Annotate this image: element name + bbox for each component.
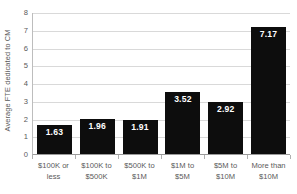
x-axis-category-label-line: $500K [75,172,118,183]
y-axis-tick-label: 4 [24,80,28,88]
bar-slot: 1.91 [119,13,162,154]
bar-slot: 2.92 [204,13,247,154]
x-axis-category-labels: $100K orless$100K to$500K$500K to$1M$1M … [32,161,290,182]
y-axis-tick-labels: 012345678 [16,13,30,155]
x-axis-category-label: $100K to$500K [75,161,118,182]
y-axis-tick-label: 7 [24,27,28,35]
x-axis-category-label-line: $10M [204,172,247,183]
x-axis-category-label-line: $1M [118,172,161,183]
bar-slot: 7.17 [247,13,290,154]
bar[interactable]: 1.91 [123,120,158,154]
y-axis-title-text: Average FTE dedicated to CM [4,29,13,131]
y-axis-title: Average FTE dedicated to CM [0,0,16,160]
x-axis-category-label-line: $100K or [32,161,75,172]
bar-value-label: 1.63 [46,128,64,154]
y-axis-tick-label: 8 [24,9,28,17]
bar-slot: 1.96 [76,13,119,154]
plot-area: 1.631.961.913.522.927.17 [32,13,290,155]
x-axis-tick-mark [290,155,291,159]
y-axis-tick-label: 2 [24,116,28,124]
bar[interactable]: 7.17 [251,27,286,154]
bar-slot: 3.52 [161,13,204,154]
y-axis-tick-label: 6 [24,45,28,53]
y-axis-tick-label: 3 [24,98,28,106]
x-axis-tick-mark [32,155,33,159]
y-axis-tick-label: 1 [24,133,28,141]
x-axis-category-label: $100K orless [32,161,75,182]
y-axis-tick-label: 0 [24,151,28,159]
x-axis-category-label-line: $5M to [204,161,247,172]
x-axis-category-label-line: $100K to [75,161,118,172]
bar-value-label: 1.96 [88,122,106,154]
bar[interactable]: 2.92 [208,102,243,154]
x-axis-category-label: $5M to$10M [204,161,247,182]
bar-slot: 1.63 [33,13,76,154]
x-axis-category-label: $500K to$1M [118,161,161,182]
x-axis-category-label-line: $5M [161,172,204,183]
y-axis-tick-label: 5 [24,62,28,70]
x-axis-tick-mark [118,155,119,159]
bar-value-label: 2.92 [217,105,235,154]
x-axis-tick-mark [204,155,205,159]
x-axis-category-label-line: $1M to [161,161,204,172]
x-axis-category-label: More than$10M [247,161,290,182]
bar-chart: Average FTE dedicated to CM 012345678 1.… [0,0,297,194]
bar-series: 1.631.961.913.522.927.17 [33,13,290,154]
x-axis-tick-mark [161,155,162,159]
x-axis-category-label-line: $500K to [118,161,161,172]
bar-value-label: 1.91 [131,123,149,154]
x-axis-category-label-line: $10M [247,172,290,183]
bar[interactable]: 1.63 [37,125,72,154]
bar-value-label: 7.17 [260,30,278,154]
x-axis-category-label-line: less [32,172,75,183]
bar-value-label: 3.52 [174,95,192,154]
bar[interactable]: 3.52 [165,92,200,154]
x-axis-tick-mark [247,155,248,159]
x-axis-tick-mark [75,155,76,159]
bar[interactable]: 1.96 [80,119,115,154]
x-axis-category-label: $1M to$5M [161,161,204,182]
x-axis-category-label-line: More than [247,161,290,172]
